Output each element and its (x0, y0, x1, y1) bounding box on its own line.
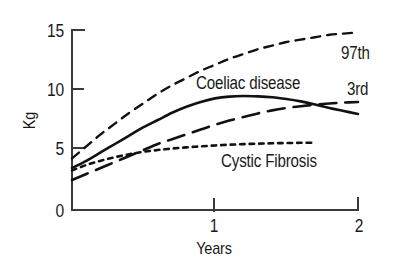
y-axis-tick-label-0: 0 (34, 201, 64, 220)
x-axis-title: Years (180, 240, 248, 257)
series-label-cystic-fibrosis: Cystic Fibrosis (221, 152, 317, 170)
series-label-coeliac-disease: Coeliac disease (196, 74, 300, 92)
growth-chart-figure: 15 10 5 0 1 2 Kg Years Coeliac disease C… (0, 0, 399, 270)
x-axis-tick-label-1: 1 (198, 216, 229, 235)
series-label-97th-percentile: 97th (341, 44, 370, 62)
series-label-3rd-percentile: 3rd (347, 80, 368, 98)
y-axis-tick-label-5: 5 (34, 139, 64, 158)
y-axis-title: Kg (21, 106, 38, 135)
y-axis-line (72, 30, 84, 210)
y-axis-tick-label-10: 10 (34, 80, 64, 99)
curve-97th-percentile (72, 32, 358, 158)
x-axis-tick-label-2: 2 (343, 216, 374, 235)
y-axis-tick-label-15: 15 (34, 21, 64, 40)
